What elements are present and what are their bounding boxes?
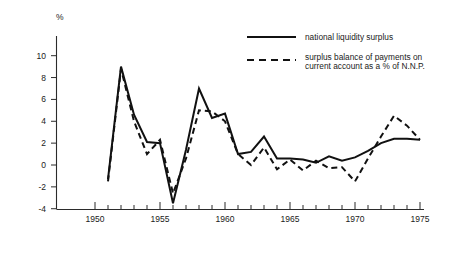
y-tick-label: -4 bbox=[38, 204, 46, 214]
x-tick-group: 195019551960196519701975 bbox=[86, 202, 430, 224]
x-tick-label: 1975 bbox=[411, 214, 430, 224]
x-tick-label: 1960 bbox=[216, 214, 235, 224]
y-tick-group: -4-20246810 bbox=[37, 51, 57, 214]
series-line-dashed bbox=[108, 69, 420, 194]
y-tick-label: 6 bbox=[41, 94, 46, 104]
y-tick-label: 4 bbox=[41, 116, 46, 126]
legend-label-surplus-balance-line2: current account as a % of N.N.P. bbox=[305, 61, 425, 71]
series-group bbox=[108, 67, 420, 204]
y-tick-label: -2 bbox=[38, 182, 46, 192]
x-axis: 195019551960196519701975 bbox=[57, 202, 430, 224]
x-tick-label: 1955 bbox=[151, 214, 170, 224]
y-axis-unit-label: % bbox=[56, 12, 64, 22]
y-tick-label: 2 bbox=[41, 138, 46, 148]
x-tick-label: 1965 bbox=[281, 214, 300, 224]
legend-label-national-liquidity-surplus: national liquidity surplus bbox=[305, 32, 393, 42]
line-chart: -4-20246810 195019551960196519701975 % n… bbox=[0, 0, 460, 253]
y-tick-label: 10 bbox=[37, 51, 47, 61]
x-tick-label: 1950 bbox=[86, 214, 105, 224]
series-line-solid bbox=[108, 67, 420, 204]
chart-legend: national liquidity surplus surplus balan… bbox=[247, 32, 425, 71]
x-tick-label: 1970 bbox=[346, 214, 365, 224]
y-tick-label: 0 bbox=[41, 160, 46, 170]
y-tick-label: 8 bbox=[41, 73, 46, 83]
chart-container: -4-20246810 195019551960196519701975 % n… bbox=[0, 0, 460, 253]
y-axis: -4-20246810 bbox=[37, 36, 57, 214]
